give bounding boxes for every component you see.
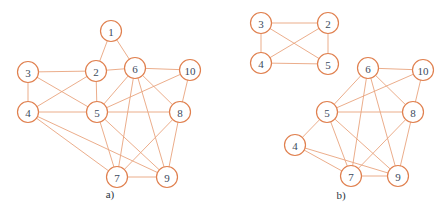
caption-a: a) (106, 188, 115, 201)
node-label: 7 (114, 172, 120, 184)
node-b-9: 9 (388, 166, 409, 187)
node-b-6: 6 (358, 58, 379, 79)
edge-b-6-7 (351, 68, 368, 176)
node-b-8: 8 (403, 102, 424, 123)
node-label: 5 (94, 107, 100, 119)
node-b-top-4: 4 (251, 53, 272, 74)
node-a-2: 2 (86, 61, 107, 82)
node-label: 5 (324, 107, 330, 119)
edge-b-6-9 (368, 68, 398, 176)
captions-layer: a)b) (106, 188, 346, 202)
node-a-9: 9 (157, 167, 178, 188)
node-label: 1 (108, 26, 114, 38)
edge-b-8-7 (351, 112, 413, 176)
node-label: 4 (25, 107, 31, 119)
node-label: 8 (177, 107, 183, 119)
edge-a-4-7 (28, 112, 117, 177)
node-label: 10 (185, 65, 197, 77)
node-label: 4 (292, 140, 298, 152)
node-b-5: 5 (317, 102, 338, 123)
node-label: 9 (395, 171, 401, 183)
node-label: 6 (365, 63, 371, 75)
node-label: 10 (418, 65, 430, 77)
edge-b-5-9 (327, 112, 398, 176)
node-a-3: 3 (18, 62, 39, 83)
node-a-1: 1 (101, 21, 122, 42)
node-label: 9 (164, 172, 170, 184)
node-label: 3 (25, 67, 31, 79)
node-label: 8 (410, 107, 416, 119)
node-b-4: 4 (285, 135, 306, 156)
node-label: 3 (258, 18, 264, 30)
node-label: 6 (132, 63, 138, 75)
node-b-top-2: 2 (318, 13, 339, 34)
node-a-4: 4 (18, 102, 39, 123)
node-a-5: 5 (87, 102, 108, 123)
node-label: 2 (325, 18, 331, 30)
edges-layer (28, 23, 423, 177)
node-b-top-5: 5 (318, 54, 339, 75)
edge-a-5-9 (97, 112, 167, 177)
node-label: 2 (93, 66, 99, 78)
node-a-10: 10 (180, 60, 201, 81)
node-b-10: 10 (413, 60, 434, 81)
node-a-8: 8 (170, 102, 191, 123)
node-label: 4 (258, 58, 264, 70)
node-b-7: 7 (341, 166, 362, 187)
node-a-7: 7 (107, 167, 128, 188)
caption-b: b) (336, 189, 346, 202)
node-label: 5 (325, 59, 331, 71)
edge-a-6-9 (135, 68, 167, 177)
node-b-top-3: 3 (251, 13, 272, 34)
node-label: 7 (348, 171, 354, 183)
node-a-6: 6 (125, 58, 146, 79)
nodes-layer: 12361045879324561058479 (18, 13, 434, 188)
graph-diagram: 12361045879324561058479 a)b) (0, 0, 444, 213)
